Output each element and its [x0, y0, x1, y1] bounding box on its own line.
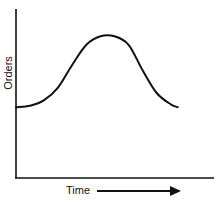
y-axis-label: Orders — [1, 55, 15, 91]
time-arrow — [97, 186, 181, 196]
chart-canvas — [0, 0, 217, 209]
orders-curve — [16, 35, 178, 107]
x-axis-label: Time — [66, 183, 90, 197]
